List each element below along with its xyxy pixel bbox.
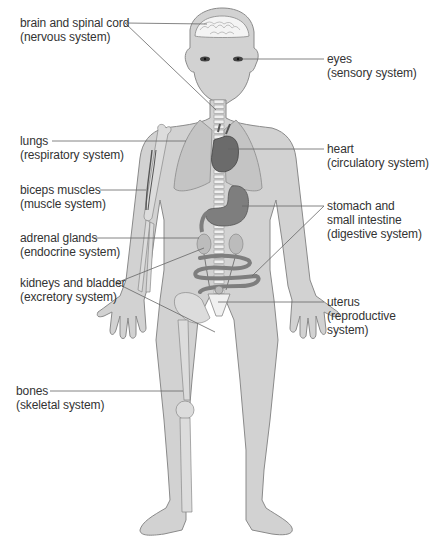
vertebra	[214, 260, 224, 264]
vertebra	[214, 185, 224, 189]
label-heart-name: heart	[327, 142, 429, 156]
label-kidneys-name: kidneys and bladder	[20, 276, 126, 290]
vertebra	[214, 240, 224, 244]
label-heart: heart (circulatory system)	[327, 142, 429, 170]
label-biceps-name: biceps muscles	[20, 183, 106, 197]
vertebra	[214, 280, 224, 284]
vertebra	[214, 245, 224, 249]
label-eyes-system: (sensory system)	[327, 66, 417, 80]
vertebra	[214, 180, 224, 184]
label-heart-system: (circulatory system)	[327, 156, 429, 170]
label-stomach-name2: small intestine	[327, 213, 422, 227]
label-lungs-system: (respiratory system)	[20, 148, 124, 162]
label-brain-name: brain and spinal cord	[20, 16, 129, 30]
label-eyes-name: eyes	[327, 52, 417, 66]
vertebra	[214, 230, 224, 234]
vertebra	[214, 175, 224, 179]
label-eyes: eyes (sensory system)	[327, 52, 417, 80]
label-stomach-name: stomach and	[327, 199, 422, 213]
body-systems-diagram: brain and spinal cord (nervous system) e…	[0, 0, 439, 555]
vertebra	[214, 120, 224, 124]
label-uterus: uterus (reproductive system)	[327, 295, 396, 337]
vertebra	[214, 100, 224, 104]
label-kidneys: kidneys and bladder (excretory system)	[20, 276, 126, 304]
label-uterus-system: (reproductive	[327, 309, 396, 323]
label-biceps-system: (muscle system)	[20, 197, 106, 211]
vertebra	[214, 235, 224, 239]
label-brain-system: (nervous system)	[20, 30, 129, 44]
vertebra	[214, 270, 224, 274]
label-uterus-name: uterus	[327, 295, 396, 309]
vertebra	[214, 190, 224, 194]
label-stomach: stomach and small intestine (digestive s…	[327, 199, 422, 241]
label-adrenal-system: (endocrine system)	[20, 245, 120, 259]
label-bones-name: bones	[16, 384, 104, 398]
label-adrenal-name: adrenal glands	[20, 231, 120, 245]
vertebra	[214, 110, 224, 114]
label-bones-system: (skeletal system)	[16, 398, 104, 412]
vertebra	[214, 250, 224, 254]
label-lungs-name: lungs	[20, 134, 124, 148]
vertebra	[214, 195, 224, 199]
vertebra	[214, 200, 224, 204]
vertebra	[214, 105, 224, 109]
label-biceps: biceps muscles (muscle system)	[20, 183, 106, 211]
label-kidneys-system: (excretory system)	[20, 290, 126, 304]
label-bones: bones (skeletal system)	[16, 384, 104, 412]
label-stomach-system: (digestive system)	[327, 227, 422, 241]
vertebra	[214, 115, 224, 119]
label-brain: brain and spinal cord (nervous system)	[20, 16, 129, 44]
label-adrenal: adrenal glands (endocrine system)	[20, 231, 120, 259]
label-uterus-system2: system)	[327, 323, 396, 337]
label-lungs: lungs (respiratory system)	[20, 134, 124, 162]
